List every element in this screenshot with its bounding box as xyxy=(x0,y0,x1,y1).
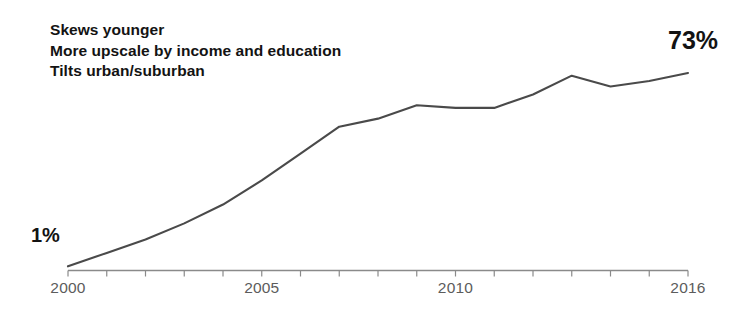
adoption-line-series xyxy=(68,73,688,266)
x-axis-label-2010: 2010 xyxy=(438,279,473,297)
x-axis-label-2005: 2005 xyxy=(244,279,279,297)
axis-group xyxy=(68,271,688,277)
x-axis-label-2000: 2000 xyxy=(50,279,85,297)
line-chart-plot xyxy=(0,0,745,325)
x-axis-label-2016: 2016 xyxy=(670,279,705,297)
x-axis-ticks xyxy=(68,271,688,277)
chart-container: Skews younger More upscale by income and… xyxy=(0,0,745,325)
